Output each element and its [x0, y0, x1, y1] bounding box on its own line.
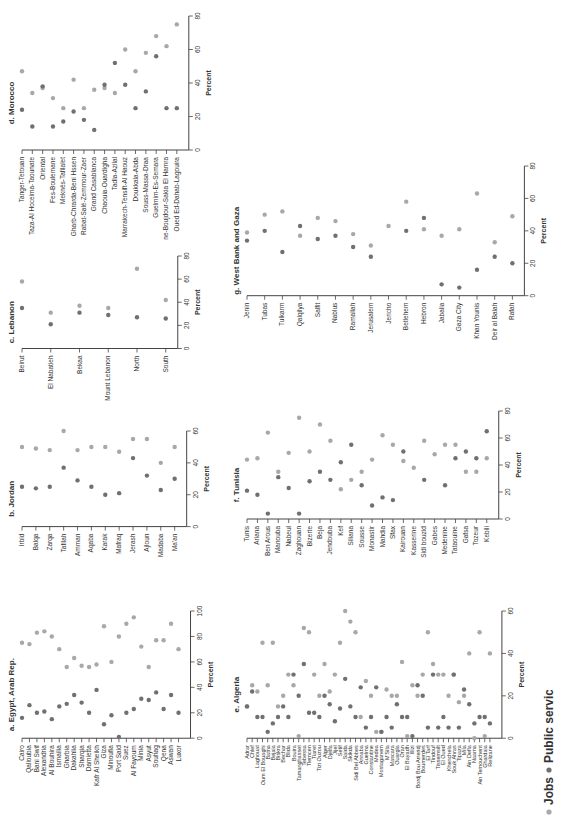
- public-services-point: [276, 715, 280, 719]
- public-services-point: [123, 82, 127, 86]
- value-axis-title: Percent: [518, 661, 525, 687]
- jobs-point: [410, 683, 414, 687]
- jobs-point: [286, 672, 290, 676]
- category-label: Ramallah: [349, 302, 356, 330]
- public-services-point: [164, 316, 168, 320]
- value-tick-label: 80: [183, 252, 190, 260]
- value-tick-label: 60: [192, 427, 199, 435]
- public-services-point: [307, 479, 311, 483]
- jobs-point: [343, 609, 347, 613]
- public-services-point: [147, 698, 151, 702]
- jobs-point: [467, 651, 471, 655]
- public-services-point: [462, 687, 466, 691]
- value-tick-label: 40: [507, 649, 514, 657]
- jobs-point: [380, 433, 384, 437]
- category-label: Giza: [100, 745, 107, 759]
- jobs-point: [510, 214, 514, 218]
- public-services-point: [57, 704, 61, 708]
- panel-morocco: d. MoroccoTanger-TetouanTaza-Al Hoceima-…: [0, 0, 225, 240]
- jobs-point: [79, 664, 83, 668]
- value-tick-label: 40: [183, 298, 190, 306]
- public-services-point: [353, 715, 357, 719]
- jobs-point: [172, 445, 176, 449]
- jobs-point: [302, 626, 306, 630]
- jobs-point: [453, 443, 457, 447]
- value-tick-label: 60: [504, 434, 511, 442]
- category-label: Bani Swif: [33, 745, 40, 772]
- public-services-point: [297, 511, 301, 515]
- jobs-point: [415, 694, 419, 698]
- public-services-point: [103, 493, 107, 497]
- category-label: Nabeul: [285, 525, 292, 546]
- public-services-point: [421, 694, 425, 698]
- jobs-point: [483, 734, 487, 738]
- category-label: Karak: [101, 533, 108, 551]
- jobs-point: [131, 437, 135, 441]
- public-services-point: [72, 693, 76, 697]
- public-services-point: [20, 108, 24, 112]
- jobs-point: [34, 446, 38, 450]
- jobs-point: [401, 459, 405, 463]
- category-label: Meknès-Tafilalet: [59, 157, 66, 204]
- jobs-point: [164, 298, 168, 302]
- public-services-point: [369, 255, 373, 259]
- category-label: Rafah: [508, 302, 515, 320]
- jobs-point: [431, 662, 435, 666]
- public-services-point: [348, 704, 352, 708]
- jobs-point: [369, 243, 373, 247]
- panel-title: d. Morocco: [7, 82, 16, 125]
- category-label: Ben Arous: [264, 525, 271, 556]
- panel-title: e. Algeria: [232, 676, 241, 712]
- jobs-point: [65, 665, 69, 669]
- jobs-point: [106, 306, 110, 310]
- value-tick-label: 60: [507, 607, 514, 615]
- category-label: Ismailia: [55, 745, 62, 767]
- category-label: Taza-Al Hoceima-Taounate: [28, 157, 35, 235]
- public-services-point: [255, 493, 259, 497]
- category-label: Cairo: [18, 745, 25, 761]
- jobs-point: [82, 106, 86, 110]
- public-services-point: [422, 216, 426, 220]
- jobs-point: [316, 216, 320, 220]
- value-tick-label: 80: [529, 162, 536, 170]
- public-services-point: [415, 683, 419, 687]
- jobs-point: [374, 730, 378, 734]
- jobs-point: [462, 694, 466, 698]
- public-services-point: [286, 715, 290, 719]
- jobs-point: [102, 624, 106, 628]
- jobs-point: [298, 234, 302, 238]
- category-label: Doukkala-Abda: [132, 157, 139, 202]
- public-services-point: [457, 725, 461, 729]
- public-services-point: [488, 721, 492, 725]
- public-services-point: [42, 709, 46, 713]
- category-label: Jericho: [385, 302, 392, 323]
- category-label: Ajloun: [143, 533, 151, 551]
- category-label: El Nabatieh: [47, 355, 54, 389]
- public-services-point: [400, 715, 404, 719]
- value-tick-label: 40: [504, 461, 511, 469]
- public-services-point: [250, 689, 254, 693]
- value-tick-label: 60: [529, 194, 536, 202]
- jobs-point: [276, 704, 280, 708]
- public-services-point: [49, 322, 53, 326]
- category-label: Amman: [74, 533, 81, 556]
- category-label: Oriental: [39, 156, 46, 179]
- value-tick-label: 60: [183, 275, 190, 283]
- category-label: Kairouan: [399, 526, 406, 552]
- public-services-point: [172, 477, 176, 481]
- value-tick-label: 60: [196, 658, 203, 666]
- public-services-point: [135, 315, 139, 319]
- public-services-point: [61, 465, 65, 469]
- jobs-point: [400, 660, 404, 664]
- category-label: Bizerte: [306, 526, 313, 547]
- jobs-point: [474, 470, 478, 474]
- public-services-point: [370, 503, 374, 507]
- category-label: Jerash: [129, 533, 136, 553]
- jobs-point: [488, 651, 492, 655]
- jobs-point: [370, 457, 374, 461]
- public-services-point: [477, 715, 481, 719]
- public-services-point: [30, 124, 34, 128]
- jobs-point: [42, 629, 46, 633]
- public-services-point: [464, 449, 468, 453]
- public-services-point: [286, 486, 290, 490]
